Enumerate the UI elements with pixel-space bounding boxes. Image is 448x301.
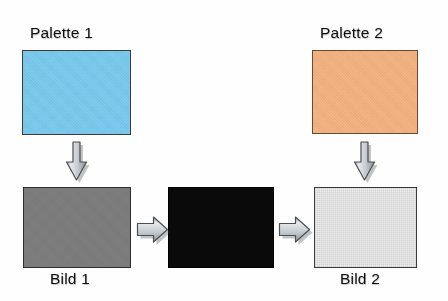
- arrow-black-to-bild2-right-icon: [277, 212, 311, 244]
- paper-grain-texture: [23, 51, 130, 134]
- arrow-palette2-to-bild2-down-icon: [352, 137, 378, 185]
- label-bild-2: Bild 2: [340, 270, 380, 288]
- node-palette-1: [22, 50, 131, 135]
- palette-1-swatch-fill: [23, 51, 130, 134]
- palette-2-swatch-fill: [313, 51, 417, 133]
- node-bild-2: [314, 187, 417, 268]
- node-palette-2: [312, 50, 418, 134]
- node-result-black: [168, 187, 274, 268]
- paper-grain-texture: [24, 188, 130, 267]
- diagram-canvas: Palette 1 Palette 2 Bild 1 Bild 2: [0, 0, 448, 301]
- arrow-palette1-to-bild1-down-icon: [64, 137, 90, 185]
- arrow-bild1-to-black-right-icon: [135, 212, 169, 244]
- halftone-grid-texture: [315, 188, 416, 267]
- label-palette-2: Palette 2: [320, 24, 383, 42]
- label-palette-1: Palette 1: [30, 24, 93, 42]
- node-bild-1: [23, 187, 131, 268]
- bild-2-image-fill: [315, 188, 416, 267]
- result-black-image-fill: [169, 188, 273, 267]
- label-bild-1: Bild 1: [50, 270, 90, 288]
- bild-1-image-fill: [24, 188, 130, 267]
- paper-grain-texture: [313, 51, 417, 133]
